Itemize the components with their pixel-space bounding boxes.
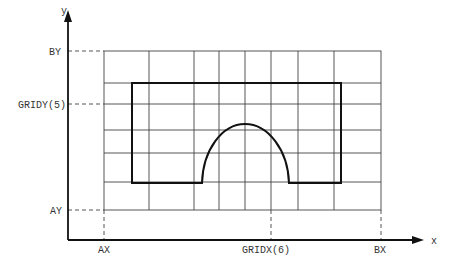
label-ax: AX: [98, 245, 110, 256]
shape-outline: [132, 83, 341, 183]
grid: [104, 51, 381, 210]
grid-diagram: y x BY GRIDY(5) AY AX GRIDX(6) BX: [0, 0, 449, 262]
axes: [64, 10, 424, 244]
label-gridy: GRIDY(5): [18, 100, 66, 111]
y-axis-label: y: [61, 6, 67, 17]
label-ay: AY: [50, 206, 62, 217]
label-by: BY: [49, 47, 61, 58]
grid-boundary: [104, 51, 381, 210]
x-axis-arrow-icon: [412, 236, 424, 244]
label-bx: BX: [374, 245, 386, 256]
x-axis-label: x: [431, 236, 437, 247]
label-gridx: GRIDX(6): [242, 245, 290, 256]
